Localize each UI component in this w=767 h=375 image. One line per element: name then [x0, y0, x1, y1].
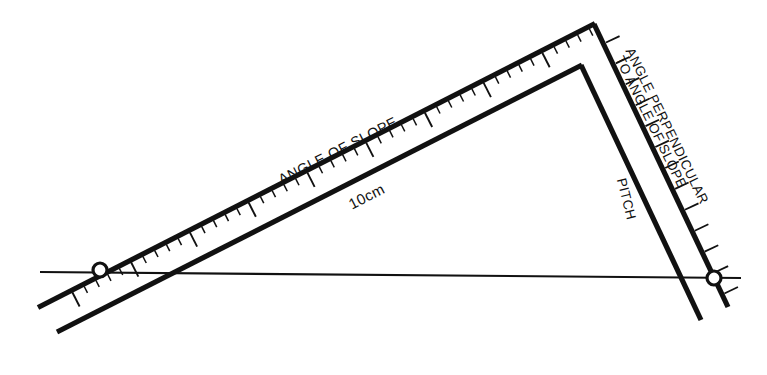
diagram-root: ANGLE OF SLOPE 10cm PITCH ANGLE PERPENDI…	[0, 0, 767, 375]
left-pivot-marker	[93, 263, 107, 277]
slope-pitch-diagram: ANGLE OF SLOPE 10cm PITCH ANGLE PERPENDI…	[0, 0, 767, 375]
right-pivot-marker	[707, 271, 721, 285]
